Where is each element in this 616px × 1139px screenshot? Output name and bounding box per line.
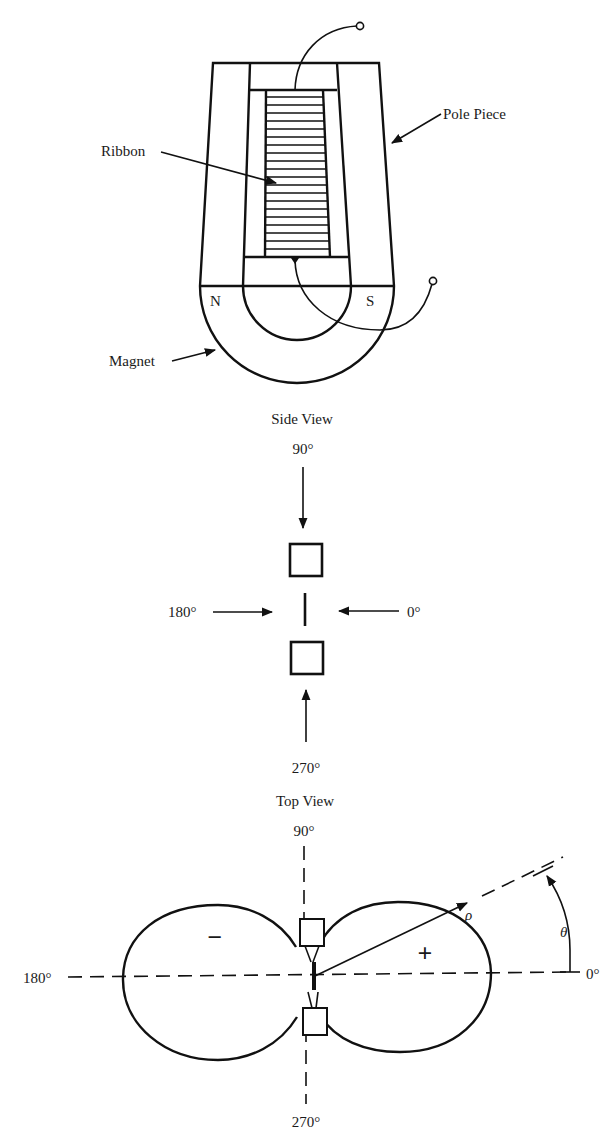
- side-angle-180: 180°: [168, 604, 197, 620]
- top-pole-square-upper: [300, 919, 324, 946]
- pole-square-bottom: [291, 642, 323, 674]
- south-pole-label: S: [366, 293, 374, 309]
- top-angle-90: 90°: [294, 823, 315, 839]
- top-angle-180: 180°: [23, 970, 52, 986]
- top-view-polar-pattern: 90° ρ θ −: [23, 823, 600, 1130]
- pole-square-top: [290, 544, 322, 576]
- top-lead-wire: [295, 26, 357, 90]
- ribbon-right-edge: [323, 90, 330, 257]
- ribbon-corrugations: [265, 97, 330, 249]
- top-view-caption: Top View: [276, 793, 334, 809]
- top-pole-square-lower: [303, 1008, 327, 1035]
- bottom-terminal: [429, 277, 436, 284]
- top-angle-0: 0°: [586, 966, 600, 982]
- ribbon-callout-arrow: [161, 152, 276, 183]
- positive-lobe: [319, 902, 491, 1052]
- ribbon-label: Ribbon: [101, 143, 146, 159]
- magnet-label: Magnet: [109, 353, 156, 369]
- rho-vector: [315, 903, 467, 976]
- ribbon-left-edge: [265, 90, 266, 257]
- north-pole-label: N: [210, 293, 221, 309]
- pole-piece-callout-arrow: [392, 114, 441, 143]
- microphone-device: N S Ribbon Pole Piece Magnet: [101, 22, 506, 383]
- magnet-inner-arc: [243, 286, 351, 340]
- pole-piece-label: Pole Piece: [443, 106, 506, 122]
- side-view: 90° 180° 0° 270°: [168, 441, 421, 776]
- theta-reference-line: [482, 857, 563, 896]
- rho-symbol: ρ: [464, 907, 472, 923]
- bottom-lead-wire: [295, 260, 432, 330]
- magnet-outer-arc: [200, 286, 394, 383]
- top-terminal: [356, 22, 363, 29]
- ribbon-microphone-diagram: N S Ribbon Pole Piece Magnet Side View 9…: [0, 0, 616, 1139]
- right-pole-inner-edge: [337, 63, 351, 286]
- theta-symbol: θ: [560, 924, 568, 940]
- magnet-callout-arrow: [172, 350, 215, 361]
- side-angle-0: 0°: [407, 604, 421, 620]
- positive-sign: +: [418, 939, 433, 968]
- side-angle-270: 270°: [292, 760, 321, 776]
- negative-sign: −: [208, 923, 223, 952]
- side-view-caption: Side View: [271, 411, 333, 427]
- side-angle-90: 90°: [293, 441, 314, 457]
- top-angle-270: 270°: [292, 1114, 321, 1130]
